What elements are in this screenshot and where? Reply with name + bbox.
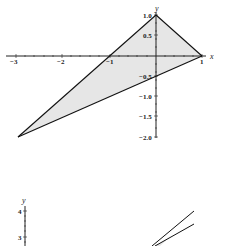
- y-tick-label: −2.0: [139, 134, 152, 142]
- y-axis-label: y: [154, 4, 159, 13]
- x-tick-label: −1: [106, 58, 114, 66]
- y-axis-2-label: y: [21, 196, 26, 205]
- x-tick-label: 1: [200, 58, 204, 66]
- y-tick-label: −1.0: [139, 93, 152, 101]
- y-tick-label: −1.5: [139, 113, 152, 121]
- intersecting-lines-chart: 4 3 y: [18, 196, 194, 246]
- y2-tick-label: 3: [18, 234, 22, 242]
- x-tick-label: −2: [57, 58, 65, 66]
- x-tick-label: −3: [10, 58, 18, 66]
- x-axis-label: x: [209, 52, 214, 61]
- y2-tick-label: 4: [18, 208, 22, 216]
- shaded-triangle-region: [18, 15, 202, 137]
- y-tick-label: 1.0: [143, 12, 152, 20]
- y-tick-label: 0.5: [143, 32, 152, 40]
- steep-line: [152, 211, 194, 246]
- y-tick-label: −0.5: [139, 73, 152, 81]
- figure-canvas: −3 −2 −1 1 x 1.0 0.5 −0.5 −1.0 −1.5 −2.0…: [0, 0, 230, 246]
- triangle-chart: −3 −2 −1 1 x 1.0 0.5 −0.5 −1.0 −1.5 −2.0…: [6, 4, 214, 142]
